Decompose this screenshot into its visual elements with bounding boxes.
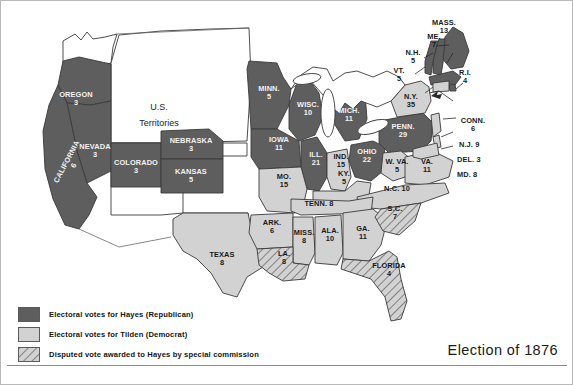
state-ohio-shape bbox=[349, 141, 385, 181]
lake-michigan-shape bbox=[321, 89, 335, 137]
state-connecticut-shape bbox=[433, 81, 449, 92]
state-indiana-shape bbox=[327, 149, 351, 191]
state-oregon-shape bbox=[58, 57, 111, 105]
us-territories-label: U.S. Territories bbox=[113, 99, 205, 131]
legend-swatch-disputed bbox=[18, 347, 40, 362]
footer-divider bbox=[7, 365, 567, 366]
state-colorado-shape bbox=[111, 143, 161, 187]
state-minnesota-shape bbox=[247, 61, 291, 129]
legend-swatch-hayes bbox=[18, 307, 40, 322]
map-title: Election of 1876 bbox=[448, 342, 558, 358]
legend-item-tilden: Electoral votes for Tilden (Democrat) bbox=[18, 327, 259, 342]
territories-line-1: U.S. bbox=[150, 102, 168, 112]
hatch-swatch-icon bbox=[19, 348, 39, 361]
legend-item-disputed: Disputed vote awarded to Hayes by specia… bbox=[18, 347, 259, 362]
state-maine-shape bbox=[441, 27, 469, 69]
state-mississippi-shape bbox=[293, 217, 315, 265]
legend-item-hayes: Electoral votes for Hayes (Republican) bbox=[18, 307, 259, 322]
state-florida-shape bbox=[341, 251, 407, 321]
state-nebraska-shape bbox=[161, 129, 223, 159]
map-legend: Electoral votes for Hayes (Republican) E… bbox=[18, 307, 259, 367]
election-map-figure: U.S. Territories OREGON 3 NEVADA 3 CALIF… bbox=[0, 0, 573, 385]
state-kansas-shape bbox=[161, 159, 223, 193]
state-arkansas-shape bbox=[249, 213, 293, 249]
legend-label-hayes: Electoral votes for Hayes (Republican) bbox=[49, 310, 194, 319]
territories-line-2: Territories bbox=[139, 118, 179, 128]
legend-label-tilden: Electoral votes for Tilden (Democrat) bbox=[49, 330, 187, 339]
legend-swatch-tilden bbox=[18, 327, 40, 342]
legend-label-disputed: Disputed vote awarded to Hayes by specia… bbox=[49, 350, 259, 359]
state-rhodeisland-shape bbox=[449, 84, 456, 91]
state-newjersey-shape bbox=[431, 113, 441, 137]
state-alabama-shape bbox=[315, 215, 343, 265]
